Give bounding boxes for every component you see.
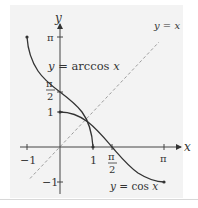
x-tick-label-pi-half-num: π (108, 151, 115, 162)
y-tick-label-1: 1 (47, 106, 54, 119)
y-axis-label: y (54, 11, 62, 25)
y-tick-label-neg1: −1 (42, 176, 58, 189)
arccos-endpoint-start (25, 35, 28, 38)
x-tick-label-pi-half-den: 2 (109, 164, 115, 175)
cos-endpoint-start (58, 110, 61, 113)
x-tick-label-neg1: −1 (20, 154, 36, 167)
identity-line-label: y = x (153, 20, 180, 31)
chart-svg: y x −1 1 π 2 π π π 2 1 −1 y = arccos x y… (0, 0, 198, 208)
x-tick-label-1: 1 (90, 154, 97, 167)
x-tick-label-pi: π (160, 153, 167, 164)
arccos-curve-label: y = arccos x (47, 59, 120, 73)
x-axis-label: x (184, 140, 191, 154)
cos-curve-label: y = cos x (109, 180, 158, 192)
y-tick-label-pi: π (47, 32, 54, 43)
arccos-endpoint-end (91, 145, 94, 148)
cos-endpoint-end (162, 180, 165, 183)
y-tick-label-pi-half-den: 2 (47, 91, 53, 102)
y-tick-label-pi-half-num: π (46, 78, 53, 89)
bottom-divider (0, 199, 198, 200)
